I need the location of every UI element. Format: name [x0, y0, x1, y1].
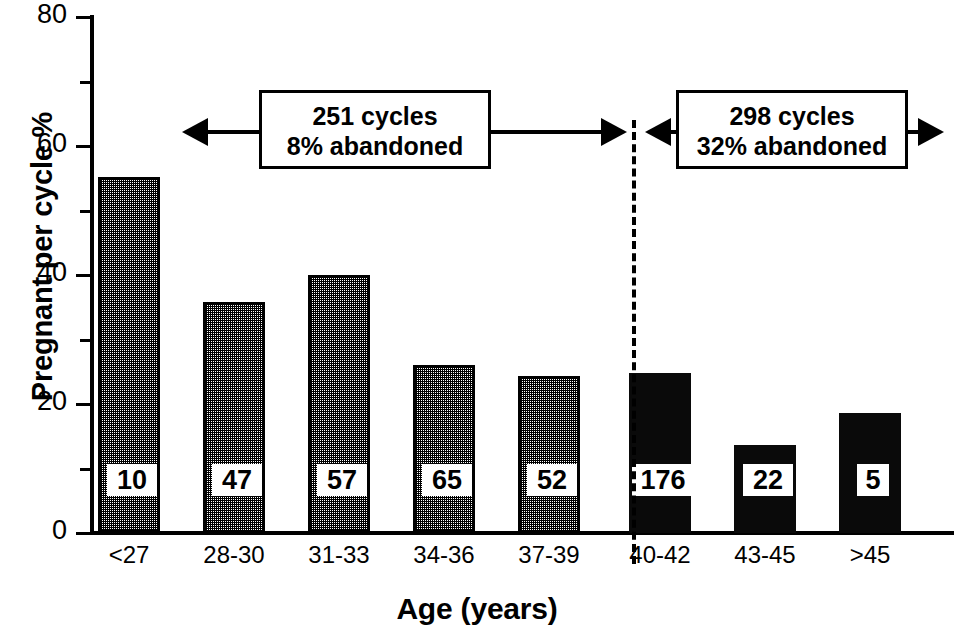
bar-34-36 [413, 365, 475, 533]
y-axis-tick-major [76, 16, 91, 19]
bar-28-30 [203, 302, 265, 533]
bar-value-label: 47 [212, 464, 262, 496]
y-axis-tick-minor [80, 210, 91, 213]
bar-value-label: 22 [743, 464, 793, 496]
y-axis-tick-major [76, 145, 91, 148]
left-annotation-line1: 251 cycles [262, 101, 488, 131]
right-annotation-arrow-right-icon [918, 118, 944, 146]
x-axis-tick-label: <27 [76, 541, 182, 569]
right-annotation-line2: 32% abandoned [679, 131, 905, 161]
x-axis-tick-label: 31-33 [286, 541, 392, 569]
y-axis-tick-minor [80, 81, 91, 84]
y-axis-tick-minor [80, 468, 91, 471]
right-annotation-box: 298 cycles 32% abandoned [676, 90, 908, 169]
y-axis-tick-minor [80, 339, 91, 342]
y-axis-tick-major [76, 274, 91, 277]
y-axis-tick-label: 0 [5, 515, 67, 546]
bar-37-39 [518, 376, 580, 533]
bar-value-label: 52 [527, 464, 577, 496]
left-annotation-box: 251 cycles 8% abandoned [259, 90, 491, 169]
y-axis-tick-major [76, 532, 91, 535]
left-annotation-arrow-right-icon [601, 118, 627, 146]
x-axis-tick-label: 34-36 [391, 541, 497, 569]
x-axis-title: Age (years) [0, 592, 954, 626]
right-annotation-line1: 298 cycles [679, 101, 905, 131]
y-axis-tick-label: 80 [5, 0, 67, 30]
bar-value-label: 57 [317, 464, 367, 496]
x-axis-tick-label: 37-39 [496, 541, 602, 569]
left-annotation-line2: 8% abandoned [262, 131, 488, 161]
x-axis-tick-label: >45 [817, 541, 923, 569]
x-axis-tick-label: 28-30 [181, 541, 287, 569]
chart-figure: 806040200 1047576552176225 <2728-3031-33… [0, 0, 954, 639]
plot-area: 806040200 1047576552176225 <2728-3031-33… [0, 0, 954, 639]
bar-40-42 [629, 373, 691, 533]
bar-value-label: 10 [107, 464, 157, 496]
y-axis-title: Pregnant per cycle % [26, 107, 59, 407]
left-annotation-line-right [489, 130, 603, 134]
bar-value-label: 65 [422, 464, 472, 496]
bar-value-label: 176 [632, 464, 694, 496]
bar-value-label: 5 [857, 464, 889, 496]
x-axis-tick-label: 43-45 [712, 541, 818, 569]
right-annotation-arrow-left-icon [645, 118, 671, 146]
x-axis-tick-label: 40-42 [607, 541, 713, 569]
left-annotation-arrow-left-icon [182, 118, 208, 146]
left-annotation-line-left [205, 130, 265, 134]
y-axis-tick-major [76, 403, 91, 406]
group-divider-dashed-line [632, 120, 636, 564]
